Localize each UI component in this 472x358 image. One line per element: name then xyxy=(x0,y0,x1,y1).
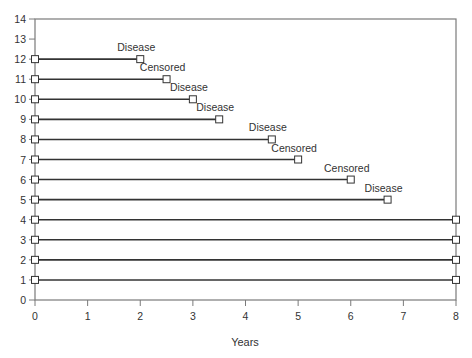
start-marker-icon xyxy=(32,76,39,83)
subject-lines: DiseaseCensoredDiseaseDiseaseDiseaseCens… xyxy=(32,41,460,283)
y-tick-label: 2 xyxy=(20,254,26,266)
x-tick-label: 6 xyxy=(348,310,354,322)
end-marker-icon xyxy=(453,236,460,243)
subject-7: Censored xyxy=(32,142,318,164)
outcome-label: Disease xyxy=(365,182,403,194)
outcome-label: Disease xyxy=(117,41,155,53)
x-tick-label: 8 xyxy=(453,310,459,322)
y-tick-label: 3 xyxy=(20,234,26,246)
subject-5: Disease xyxy=(32,182,403,204)
start-marker-icon xyxy=(32,136,39,143)
outcome-label: Censored xyxy=(140,61,186,73)
x-tick-label: 3 xyxy=(190,310,196,322)
outcome-label: Disease xyxy=(196,101,234,113)
x-tick-label: 0 xyxy=(32,310,38,322)
y-tick-label: 1 xyxy=(20,274,26,286)
end-marker-icon xyxy=(453,276,460,283)
x-tick-label: 2 xyxy=(137,310,143,322)
y-tick-label: 14 xyxy=(14,13,26,25)
subject-3 xyxy=(32,236,460,243)
y-tick-label: 10 xyxy=(14,93,26,105)
end-marker-icon xyxy=(216,116,223,123)
x-axis-label: Years xyxy=(231,336,259,348)
subject-9: Disease xyxy=(32,101,235,123)
subject-10: Disease xyxy=(32,81,209,103)
end-marker-icon xyxy=(453,216,460,223)
outcome-label: Disease xyxy=(249,121,287,133)
x-tick-label: 7 xyxy=(400,310,406,322)
subject-11: Censored xyxy=(32,61,186,83)
y-tick-label: 9 xyxy=(20,113,26,125)
start-marker-icon xyxy=(32,96,39,103)
timeline-chart: 01234567891011121314 012345678 DiseaseCe… xyxy=(0,0,472,358)
y-tick-label: 13 xyxy=(14,33,26,45)
y-tick-label: 7 xyxy=(20,154,26,166)
x-tick-label: 1 xyxy=(85,310,91,322)
subject-4 xyxy=(32,216,460,223)
start-marker-icon xyxy=(32,256,39,263)
x-tick-label: 4 xyxy=(243,310,249,322)
start-marker-icon xyxy=(32,216,39,223)
start-marker-icon xyxy=(32,56,39,63)
end-marker-icon xyxy=(384,196,391,203)
start-marker-icon xyxy=(32,156,39,163)
start-marker-icon xyxy=(32,196,39,203)
y-tick-label: 11 xyxy=(15,73,26,85)
y-tick-label: 0 xyxy=(20,294,26,306)
start-marker-icon xyxy=(32,176,39,183)
subject-8: Disease xyxy=(32,121,287,143)
y-tick-label: 12 xyxy=(14,53,26,65)
end-marker-icon xyxy=(453,256,460,263)
y-tick-label: 5 xyxy=(20,194,26,206)
subject-12: Disease xyxy=(32,41,156,63)
x-axis: 012345678 xyxy=(32,300,459,322)
outcome-label: Disease xyxy=(170,81,208,93)
start-marker-icon xyxy=(32,236,39,243)
outcome-label: Censored xyxy=(271,142,317,154)
start-marker-icon xyxy=(32,276,39,283)
end-marker-icon xyxy=(295,156,302,163)
y-tick-label: 8 xyxy=(20,133,26,145)
end-marker-icon xyxy=(347,176,354,183)
y-tick-label: 6 xyxy=(20,174,26,186)
subject-1 xyxy=(32,276,460,283)
y-tick-label: 4 xyxy=(20,214,26,226)
start-marker-icon xyxy=(32,116,39,123)
outcome-label: Censored xyxy=(324,162,370,174)
subject-2 xyxy=(32,256,460,263)
x-tick-label: 5 xyxy=(295,310,301,322)
subject-6: Censored xyxy=(32,162,370,184)
